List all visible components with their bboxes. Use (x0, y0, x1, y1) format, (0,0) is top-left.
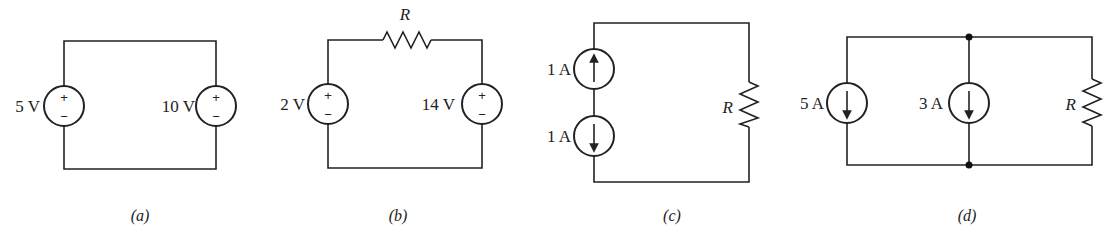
circuit-panel-c: R 1 A 1 A (c) (547, 23, 758, 225)
minus-sign: − (324, 107, 332, 122)
circuit-panel-d: R 5 A 3 A (d) (800, 34, 1101, 226)
source-label: 3 A (919, 94, 944, 113)
panel-caption: (c) (663, 207, 681, 225)
voltage-source-14v: + − (462, 84, 502, 124)
resistor-label: R (399, 5, 411, 24)
panel-caption: (d) (958, 207, 977, 225)
resistor-symbol (1083, 79, 1101, 126)
current-source-5a (827, 83, 867, 123)
junction-dot-top (966, 34, 973, 41)
panel-caption: (a) (131, 207, 150, 225)
plus-sign: + (324, 88, 332, 103)
resistor-label: R (722, 98, 734, 117)
voltage-source-10v: + − (196, 86, 236, 126)
voltage-source-5v: + − (44, 86, 84, 126)
plus-sign: + (60, 90, 68, 105)
current-source-3a (949, 83, 989, 123)
voltage-source-2v: + − (308, 84, 348, 124)
circuit-figure: + − 5 V + − 10 V (a) R + − 2 V + − 14 V … (0, 0, 1112, 239)
current-source-down (574, 116, 614, 156)
current-source-up (574, 49, 614, 89)
plus-sign: + (478, 88, 486, 103)
resistor-label: R (1065, 95, 1077, 114)
minus-sign: − (478, 107, 486, 122)
source-label: 5 V (15, 97, 40, 116)
source-label: 2 V (280, 95, 305, 114)
source-label: 1 A (547, 60, 572, 79)
minus-sign: − (212, 109, 220, 124)
minus-sign: − (60, 109, 68, 124)
source-label: 1 A (547, 127, 572, 146)
source-label: 14 V (422, 95, 456, 114)
source-label: 5 A (800, 94, 825, 113)
resistor-symbol (740, 82, 758, 127)
circuit-panel-a: + − 5 V + − 10 V (a) (15, 41, 236, 225)
junction-dot-bottom (966, 162, 973, 169)
source-label: 10 V (162, 97, 196, 116)
plus-sign: + (212, 90, 220, 105)
resistor-symbol (383, 32, 431, 48)
panel-caption: (b) (389, 207, 408, 225)
wire-loop (328, 40, 482, 168)
circuit-panel-b: R + − 2 V + − 14 V (b) (280, 5, 502, 225)
